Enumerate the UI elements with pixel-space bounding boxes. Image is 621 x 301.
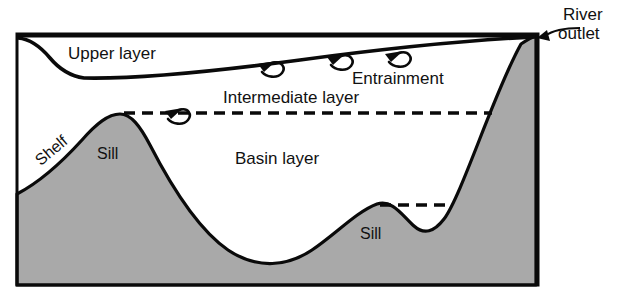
label-river-outlet-line1: River: [563, 5, 603, 24]
fjord-cross-section-diagram: Upper layer Intermediate layer Basin lay…: [0, 0, 621, 301]
label-upper-layer: Upper layer: [68, 44, 156, 63]
label-sill-left: Sill: [97, 145, 118, 162]
label-intermediate-layer: Intermediate layer: [223, 88, 359, 107]
label-river-outlet-line2: outlet: [558, 24, 600, 43]
entrainment-swirl-icon-3: [385, 51, 411, 67]
label-entrainment: Entrainment: [352, 69, 444, 88]
entrainment-swirl-icon-4: [165, 108, 190, 124]
label-basin-layer: Basin layer: [235, 149, 319, 168]
label-sill-right: Sill: [360, 225, 381, 242]
figure-canvas: Upper layer Intermediate layer Basin lay…: [0, 0, 621, 301]
